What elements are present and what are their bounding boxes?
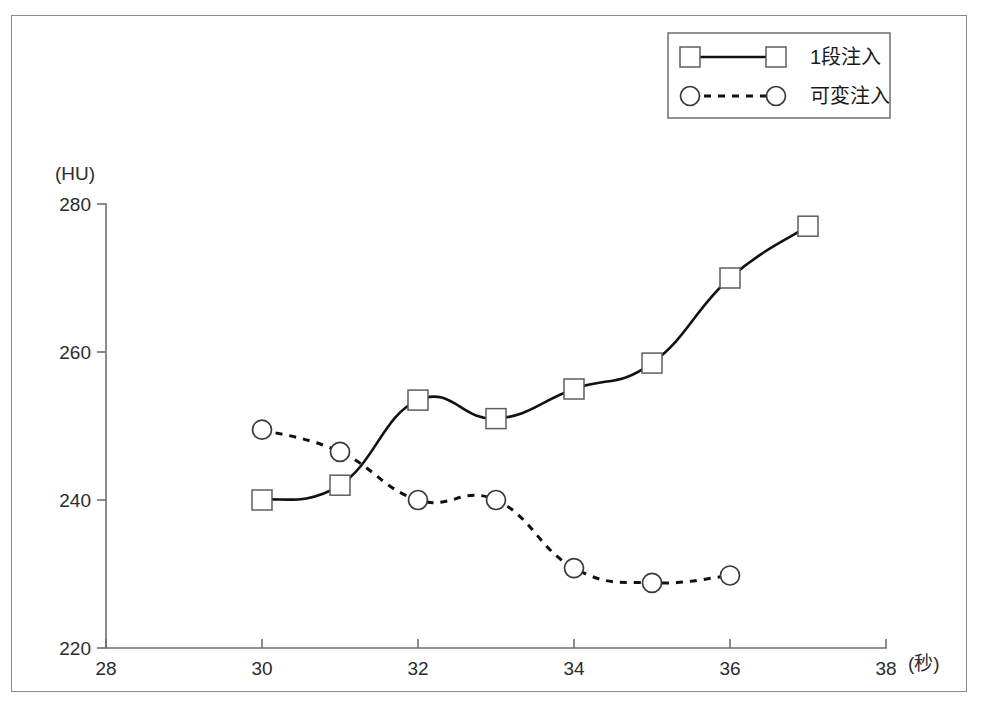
data-point-marker-circle	[253, 420, 272, 439]
data-point-marker-square	[642, 353, 662, 373]
legend-marker-circle	[767, 87, 786, 106]
x-axis-tick-label: 30	[251, 658, 272, 679]
data-point-marker-square	[486, 409, 506, 429]
data-point-marker-square	[720, 268, 740, 288]
data-point-marker-square	[252, 490, 272, 510]
x-axis-tick-label: 38	[875, 658, 896, 679]
data-point-marker-circle	[721, 566, 740, 585]
y-axis-tick-label: 220	[59, 638, 91, 659]
y-axis-tick-label: 240	[59, 490, 91, 511]
data-point-marker-circle	[331, 442, 350, 461]
data-point-marker-circle	[409, 491, 428, 510]
x-axis-unit-label: (秒)	[908, 653, 940, 674]
data-point-marker-circle	[487, 491, 506, 510]
x-axis-tick-label: 36	[719, 658, 740, 679]
legend-marker-circle	[681, 87, 700, 106]
data-point-marker-circle	[643, 573, 662, 592]
data-point-marker-square	[330, 475, 350, 495]
chart-tick-labels: 220240260280283032343638	[59, 194, 896, 679]
y-axis-tick-label: 260	[59, 342, 91, 363]
x-axis-tick-label: 34	[563, 658, 585, 679]
chart-legend: 1段注入可変注入	[668, 33, 890, 118]
x-axis-tick-label: 32	[407, 658, 428, 679]
data-point-marker-square	[564, 379, 584, 399]
chart-series	[252, 216, 818, 592]
y-axis-unit-label: (HU)	[55, 163, 95, 184]
legend-marker-square	[680, 47, 700, 67]
y-axis-tick-label: 280	[59, 194, 91, 215]
x-axis-tick-label: 28	[95, 658, 116, 679]
figure-root: 220240260280283032343638 (HU) (秒) 1段注入可変…	[0, 0, 985, 708]
data-point-marker-circle	[565, 559, 584, 578]
legend-label-2: 可変注入	[810, 85, 890, 107]
data-point-marker-square	[798, 216, 818, 236]
line-chart: 220240260280283032343638 (HU) (秒) 1段注入可変…	[0, 0, 985, 708]
legend-label-1: 1段注入	[810, 46, 881, 68]
legend-marker-square	[766, 47, 786, 67]
data-point-marker-square	[408, 390, 428, 410]
